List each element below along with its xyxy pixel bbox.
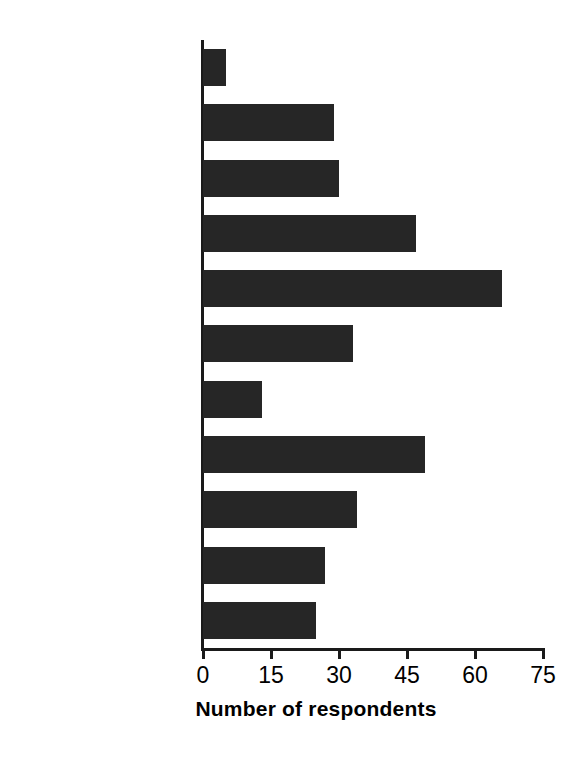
bar-row: East Midlands (203, 482, 543, 537)
bar (203, 49, 226, 86)
bar (203, 160, 339, 197)
x-tick (542, 648, 545, 659)
bar-row: South East (203, 261, 543, 316)
plot-area: Others (Scotland & Wales)Yorkshire and H… (203, 40, 543, 648)
bar-chart: Others (Scotland & Wales)Yorkshire and H… (0, 0, 584, 761)
x-axis-line (201, 648, 545, 651)
bar (203, 325, 353, 362)
x-tick-label: 30 (309, 662, 369, 689)
x-tick (202, 648, 205, 659)
x-tick-label: 0 (173, 662, 233, 689)
bar-row: West Midlands (203, 151, 543, 206)
x-tick (406, 648, 409, 659)
bar (203, 270, 502, 307)
x-tick (474, 648, 477, 659)
bar-row: North West (203, 316, 543, 371)
bar-row: South West (203, 206, 543, 261)
x-tick-label: 15 (241, 662, 301, 689)
bar (203, 104, 334, 141)
x-tick (270, 648, 273, 659)
x-tick-label: 60 (445, 662, 505, 689)
x-tick (338, 648, 341, 659)
bar (203, 381, 262, 418)
bar (203, 547, 325, 584)
bar-row: Yorkshire and Humberside (203, 95, 543, 150)
bar-row: London (203, 427, 543, 482)
bar-row: All regions (203, 593, 543, 648)
bar-row: North East (203, 372, 543, 427)
bar (203, 436, 425, 473)
x-tick-label: 75 (513, 662, 573, 689)
bar-row: Others (Scotland & Wales) (203, 40, 543, 95)
bar (203, 491, 357, 528)
x-tick-label: 45 (377, 662, 437, 689)
bar (203, 602, 316, 639)
bar (203, 215, 416, 252)
x-axis-title: Number of respondents (0, 697, 584, 721)
bar-row: East of England (203, 537, 543, 592)
